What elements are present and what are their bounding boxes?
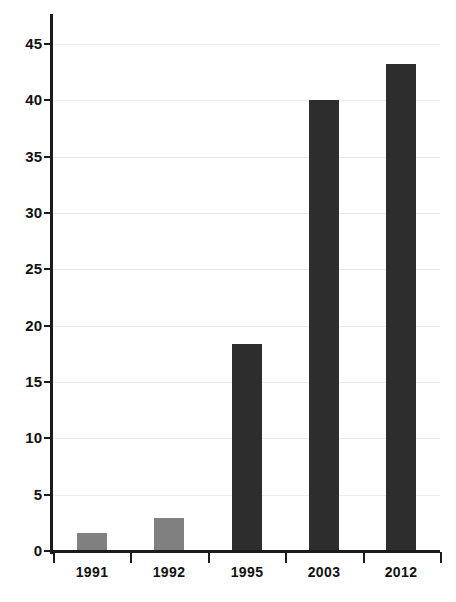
y-axis-line — [50, 14, 53, 554]
bar-2003 — [309, 100, 339, 551]
y-axis-label: 15 — [0, 374, 42, 389]
y-axis-label: 10 — [0, 430, 42, 445]
gridline — [53, 213, 440, 214]
x-axis-label-2012: 2012 — [361, 565, 441, 579]
x-axis-label-1991: 1991 — [52, 565, 132, 579]
x-axis-label-2003: 2003 — [284, 565, 364, 579]
x-tick-mark — [208, 552, 210, 563]
y-axis-label: 45 — [0, 36, 42, 51]
x-tick-mark — [285, 552, 287, 563]
x-tick-mark — [440, 552, 442, 563]
bar-1995 — [232, 344, 262, 551]
y-axis-label: 5 — [0, 487, 42, 502]
gridline — [53, 100, 440, 101]
bar-chart: 051015202530354045 19911992199520032012 — [0, 0, 456, 602]
gridline — [53, 44, 440, 45]
x-tick-mark — [130, 552, 132, 563]
x-axis-line — [50, 550, 440, 553]
x-axis-label-1992: 1992 — [129, 565, 209, 579]
y-axis-label: 30 — [0, 205, 42, 220]
x-axis-label-1995: 1995 — [207, 565, 287, 579]
gridline — [53, 157, 440, 158]
y-axis-label: 35 — [0, 149, 42, 164]
y-axis-label: 25 — [0, 261, 42, 276]
x-tick-mark — [363, 552, 365, 563]
y-axis-label: 20 — [0, 318, 42, 333]
y-axis-label: 40 — [0, 92, 42, 107]
bar-2012 — [386, 64, 416, 551]
plot-area: 051015202530354045 19911992199520032012 — [0, 0, 456, 602]
bar-1991 — [77, 533, 107, 551]
bar-1992 — [154, 518, 184, 551]
y-axis-label: 0 — [0, 543, 42, 558]
gridline — [53, 269, 440, 270]
x-tick-mark — [53, 552, 55, 563]
gridline — [53, 326, 440, 327]
